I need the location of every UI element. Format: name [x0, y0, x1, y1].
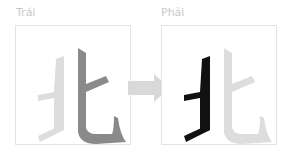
- right-label: Phải: [161, 6, 184, 19]
- character-bei-left-highlighted: [162, 26, 278, 146]
- right-panel: [161, 25, 277, 145]
- left-panel: [15, 25, 131, 145]
- left-label: Trái: [16, 6, 35, 19]
- character-bei-right-highlighted: [16, 26, 132, 146]
